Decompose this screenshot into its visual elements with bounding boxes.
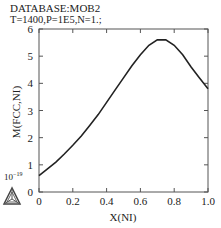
y-tick-label: 2 [28,132,34,144]
x-axis-label: X(NI) [110,211,137,224]
y-tick-label: 1 [28,159,34,171]
y-tick-label: 5 [28,50,34,62]
x-tick-label: 0.4 [100,195,114,207]
thermo-calc-triangle-logo-icon [4,188,20,204]
axis-ticks [39,29,208,192]
x-tick-label: 0.8 [167,195,181,207]
y-scale-annotation: 10−19 [4,171,22,182]
y-tick-label: 4 [28,77,34,89]
y-tick-label: 0 [28,186,34,198]
chart: 0123456 00.20.40.60.81.0 M(FCC,NI) X(NI)… [0,0,221,228]
data-line [39,40,208,176]
y-tick-label: 3 [28,105,34,117]
y-tick-label: 6 [28,23,34,35]
y-tick-labels: 0123456 [28,23,34,198]
plot-frame [39,29,208,192]
x-tick-label: 0.2 [66,195,80,207]
x-tick-label: 0 [36,195,42,207]
x-tick-label: 0.6 [134,195,148,207]
x-tick-labels: 00.20.40.60.81.0 [36,195,215,207]
y-axis-label: M(FCC,NI) [10,86,23,139]
x-tick-label: 1.0 [201,195,215,207]
